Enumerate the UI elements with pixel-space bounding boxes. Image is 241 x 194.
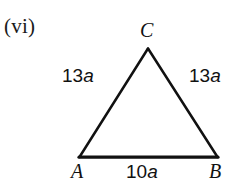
side-bc-number: 13	[189, 65, 210, 86]
side-bc-variable: a	[210, 65, 221, 86]
item-number-label: (vi)	[4, 16, 35, 37]
vertex-label-a: A	[71, 161, 83, 181]
side-length-label-ac: 13a	[62, 66, 94, 85]
side-ac-variable: a	[83, 65, 94, 86]
side-ac-number: 13	[62, 65, 83, 86]
side-length-label-bc: 13a	[189, 66, 221, 85]
side-ab-number: 10	[126, 161, 147, 182]
geometry-figure: (vi) C A B 13a 13a 10a	[0, 0, 241, 194]
triangle-drawing	[0, 0, 241, 194]
side-length-label-ab: 10a	[126, 162, 158, 181]
vertex-label-b: B	[209, 161, 221, 181]
vertex-label-c: C	[140, 20, 153, 40]
side-ab-variable: a	[147, 161, 158, 182]
